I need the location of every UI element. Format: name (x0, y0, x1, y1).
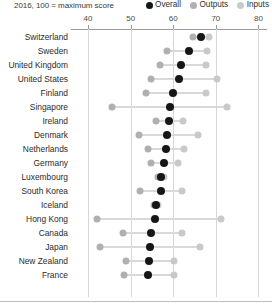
datapoint-inputs[interactable] (224, 104, 231, 111)
datapoint-overall[interactable] (165, 117, 173, 125)
datapoint-inputs[interactable] (196, 244, 203, 251)
footer-divider (0, 301, 272, 302)
chart-row: Ireland (0, 114, 272, 128)
datapoint-inputs[interactable] (179, 118, 186, 125)
axis-tick-label: 80 (254, 14, 263, 23)
chart-row: Germany (0, 156, 272, 170)
datapoint-inputs[interactable] (171, 258, 178, 265)
datapoint-inputs[interactable] (181, 146, 188, 153)
legend-label: Inputs (247, 1, 269, 9)
legend-swatch-overall-icon (146, 2, 153, 9)
legend-swatch-outputs-icon (190, 2, 197, 9)
datapoint-outputs[interactable] (189, 34, 196, 41)
datapoint-inputs[interactable] (170, 272, 177, 279)
datapoint-inputs[interactable] (217, 216, 224, 223)
datapoint-overall[interactable] (185, 47, 193, 55)
datapoint-outputs[interactable] (148, 76, 155, 83)
country-label: United States (0, 72, 68, 86)
datapoint-inputs[interactable] (179, 188, 186, 195)
datapoint-outputs[interactable] (137, 188, 144, 195)
chart-row: Netherlands (0, 142, 272, 156)
axis-tick-label: 60 (169, 14, 178, 23)
datapoint-overall[interactable] (146, 243, 154, 251)
country-label: Iceland (0, 198, 68, 212)
datapoint-inputs[interactable] (203, 48, 210, 55)
axis-tick-label: 70 (211, 14, 220, 23)
datapoint-overall[interactable] (160, 159, 168, 167)
datapoint-overall[interactable] (151, 215, 159, 223)
chart-row: Singapore (0, 100, 272, 114)
country-label: South Korea (0, 184, 68, 198)
chart-row: Iceland (0, 198, 272, 212)
datapoint-outputs[interactable] (136, 132, 143, 139)
datapoint-outputs[interactable] (144, 146, 151, 153)
datapoint-outputs[interactable] (108, 104, 115, 111)
plot-area: 4050607080 SwitzerlandSwedenUnited Kingd… (0, 14, 272, 304)
legend-label: Overall (155, 1, 181, 9)
datapoint-inputs[interactable] (206, 34, 213, 41)
chart-row: Luxembourg (0, 170, 272, 184)
datapoint-overall[interactable] (145, 257, 153, 265)
chart-row: Switzerland (0, 30, 272, 44)
datapoint-outputs[interactable] (163, 48, 170, 55)
category-rows: SwitzerlandSwedenUnited KingdomUnited St… (0, 30, 272, 282)
datapoint-overall[interactable] (166, 103, 174, 111)
country-label: Hong Kong (0, 212, 68, 226)
datapoint-overall[interactable] (144, 271, 152, 279)
datapoint-overall[interactable] (175, 75, 183, 83)
country-label: Netherlands (0, 142, 68, 156)
datapoint-outputs[interactable] (122, 258, 129, 265)
country-label: Germany (0, 156, 68, 170)
country-label: Singapore (0, 100, 68, 114)
datapoint-inputs[interactable] (179, 230, 186, 237)
country-label: Sweden (0, 44, 68, 58)
chart-row: United Kingdom (0, 58, 272, 72)
datapoint-overall[interactable] (197, 33, 205, 41)
datapoint-outputs[interactable] (143, 90, 150, 97)
country-label: Denmark (0, 128, 68, 142)
datapoint-overall[interactable] (162, 145, 170, 153)
legend-label: Outputs (200, 1, 229, 9)
legend-entry-outputs[interactable]: Outputs (190, 1, 228, 9)
country-label: Luxembourg (0, 170, 68, 184)
datapoint-overall[interactable] (157, 173, 165, 181)
datapoint-outputs[interactable] (93, 216, 100, 223)
chart-row: France (0, 268, 272, 282)
innovation-dot-plot-chart: 2016, 100 = maximum score OverallOutputs… (0, 0, 272, 304)
country-label: Switzerland (0, 30, 68, 44)
datapoint-outputs[interactable] (156, 62, 163, 69)
legend-entry-overall[interactable]: Overall (146, 1, 181, 9)
datapoint-outputs[interactable] (96, 244, 103, 251)
datapoint-overall[interactable] (147, 229, 155, 237)
country-label: Canada (0, 226, 68, 240)
chart-row: Japan (0, 240, 272, 254)
country-label: France (0, 268, 68, 282)
chart-row: Sweden (0, 44, 272, 58)
country-label: New Zealand (0, 254, 68, 268)
chart-row: Finland (0, 86, 272, 100)
datapoint-overall[interactable] (157, 187, 165, 195)
datapoint-inputs[interactable] (203, 90, 210, 97)
datapoint-inputs[interactable] (194, 132, 201, 139)
chart-row: South Korea (0, 184, 272, 198)
datapoint-inputs[interactable] (203, 62, 210, 69)
datapoint-outputs[interactable] (119, 230, 126, 237)
chart-subtitle: 2016, 100 = maximum score (14, 1, 114, 10)
chart-header: 2016, 100 = maximum score OverallOutputs… (0, 0, 272, 14)
axis-tick-label: 40 (84, 14, 93, 23)
datapoint-overall[interactable] (152, 201, 160, 209)
datapoint-outputs[interactable] (121, 272, 128, 279)
axis-tick-label: 50 (126, 14, 135, 23)
datapoint-inputs[interactable] (174, 160, 181, 167)
legend-entry-inputs[interactable]: Inputs (237, 1, 269, 9)
country-label: Finland (0, 86, 68, 100)
datapoint-inputs[interactable] (213, 76, 220, 83)
chart-row: United States (0, 72, 272, 86)
chart-row: Canada (0, 226, 272, 240)
datapoint-outputs[interactable] (152, 118, 159, 125)
chart-legend: OverallOutputsInputs (146, 1, 269, 9)
datapoint-overall[interactable] (169, 89, 177, 97)
datapoint-outputs[interactable] (147, 160, 154, 167)
datapoint-overall[interactable] (177, 61, 185, 69)
datapoint-overall[interactable] (163, 131, 171, 139)
